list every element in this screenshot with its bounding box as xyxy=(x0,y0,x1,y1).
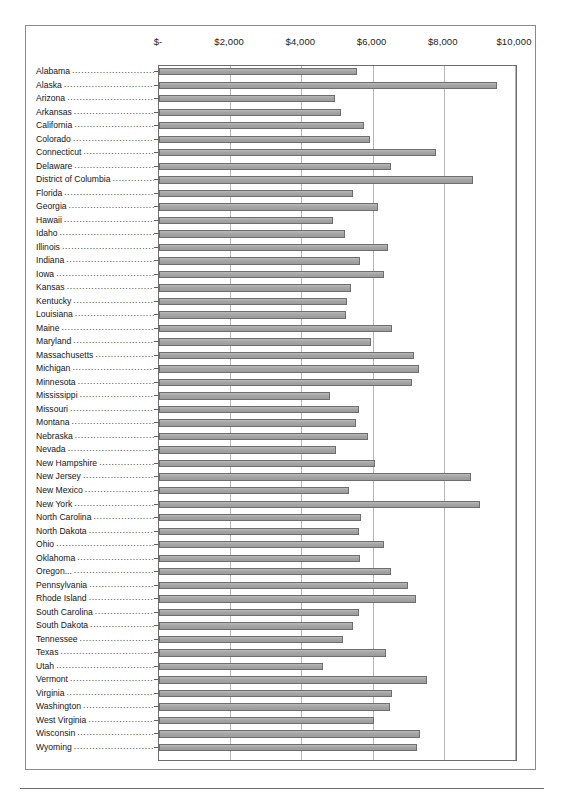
axis-tick xyxy=(154,531,158,532)
category-name: Idaho xyxy=(36,227,60,241)
chart-frame: $-$2,000$4,000$6,000$8,000$10,000 Alabam… xyxy=(25,25,536,770)
dot-leader: ........................................… xyxy=(78,376,154,389)
category-label: California..............................… xyxy=(36,119,154,133)
dot-leader: ........................................… xyxy=(93,511,154,524)
bar xyxy=(159,730,420,737)
chart-row: New Jersey..............................… xyxy=(26,470,535,484)
dot-leader: ........................................… xyxy=(72,362,154,375)
chart-row: Utah....................................… xyxy=(26,660,535,674)
category-name: Tennessee xyxy=(36,633,80,647)
dot-leader: ........................................… xyxy=(60,646,154,659)
dot-leader: ........................................… xyxy=(73,133,154,146)
dot-leader: ........................................… xyxy=(89,525,154,538)
category-label: Oregon..................................… xyxy=(36,565,154,579)
chart-row: South Carolina..........................… xyxy=(26,606,535,620)
category-label: Pennsylvania............................… xyxy=(36,579,154,593)
category-label: New Mexico..............................… xyxy=(36,484,154,498)
dot-leader: ........................................… xyxy=(90,619,154,632)
category-name: Utah xyxy=(36,660,56,674)
dot-leader: ........................................… xyxy=(71,416,154,429)
chart-row: Illinois................................… xyxy=(26,241,535,255)
bar xyxy=(159,217,333,224)
axis-tick xyxy=(154,409,158,410)
axis-tick xyxy=(154,98,158,99)
axis-tick xyxy=(154,328,158,329)
chart-row: Colorado................................… xyxy=(26,133,535,147)
category-label: Nebraska................................… xyxy=(36,430,154,444)
category-name: Oregon... xyxy=(36,565,74,579)
bar xyxy=(159,109,341,116)
bar xyxy=(159,298,347,305)
bar xyxy=(159,433,368,440)
dot-leader: ........................................… xyxy=(83,470,154,483)
bar xyxy=(159,501,480,508)
dot-leader: ........................................… xyxy=(62,241,154,254)
dot-leader: ........................................… xyxy=(77,727,154,740)
category-name: Missouri xyxy=(36,403,70,417)
axis-tick xyxy=(154,179,158,180)
dot-leader: ........................................… xyxy=(67,687,154,700)
chart-row: Michigan................................… xyxy=(26,362,535,376)
axis-tick xyxy=(154,341,158,342)
category-label: Maryland................................… xyxy=(36,335,154,349)
axis-tick xyxy=(154,625,158,626)
category-label: Utah....................................… xyxy=(36,660,154,674)
chart-row: Massachusetts...........................… xyxy=(26,349,535,363)
category-label: Louisiana...............................… xyxy=(36,308,154,322)
axis-tick xyxy=(154,476,158,477)
chart-row: North Carolina..........................… xyxy=(26,511,535,525)
chart-row: Maine...................................… xyxy=(26,322,535,336)
category-label: Iowa....................................… xyxy=(36,268,154,282)
axis-tick xyxy=(154,449,158,450)
bar xyxy=(159,609,359,616)
axis-tick xyxy=(154,166,158,167)
dot-leader: ........................................… xyxy=(77,552,154,565)
dot-leader: ........................................… xyxy=(56,268,154,281)
dot-leader: ........................................… xyxy=(88,714,154,727)
bar xyxy=(159,163,391,170)
category-label: Colorado................................… xyxy=(36,133,154,147)
category-label: South Carolina..........................… xyxy=(36,606,154,620)
chart-row: New Mexico..............................… xyxy=(26,484,535,498)
category-label: Montana.................................… xyxy=(36,416,154,430)
category-name: Virginia xyxy=(36,687,67,701)
chart-row: Nevada..................................… xyxy=(26,443,535,457)
chart-row: Idaho...................................… xyxy=(26,227,535,241)
bar xyxy=(159,203,378,210)
category-name: New Hampshire xyxy=(36,457,99,471)
category-name: Arizona xyxy=(36,92,67,106)
chart-row: North Dakota............................… xyxy=(26,525,535,539)
dot-leader: ........................................… xyxy=(70,673,154,686)
axis-tick xyxy=(154,247,158,248)
category-label: Virginia................................… xyxy=(36,687,154,701)
bar xyxy=(159,95,335,102)
bar xyxy=(159,568,391,575)
footer-rule xyxy=(20,788,544,789)
chart-row: New York................................… xyxy=(26,498,535,512)
dot-leader: ........................................… xyxy=(74,160,154,173)
category-name: Wyoming xyxy=(36,741,74,755)
bar xyxy=(159,122,364,129)
bar xyxy=(159,690,392,697)
bar xyxy=(159,365,419,372)
dot-leader: ........................................… xyxy=(67,281,154,294)
x-tick-label: $2,000 xyxy=(214,36,244,47)
bar xyxy=(159,717,374,724)
category-label: Wisconsin...............................… xyxy=(36,727,154,741)
axis-tick xyxy=(154,152,158,153)
category-name: California xyxy=(36,119,74,133)
chart-row: Virginia................................… xyxy=(26,687,535,701)
bar xyxy=(159,379,412,386)
chart-row: Missouri................................… xyxy=(26,403,535,417)
dot-leader: ........................................… xyxy=(69,200,154,213)
category-name: Louisiana xyxy=(36,308,75,322)
chart-row: Louisiana...............................… xyxy=(26,308,535,322)
dot-leader: ........................................… xyxy=(56,538,154,551)
axis-tick xyxy=(154,706,158,707)
category-label: Alabama.................................… xyxy=(36,65,154,79)
category-name: New York xyxy=(36,498,74,512)
category-name: Maine xyxy=(36,322,61,336)
category-name: Alabama xyxy=(36,65,72,79)
category-name: District of Columbia xyxy=(36,173,113,187)
category-name: North Dakota xyxy=(36,525,89,539)
